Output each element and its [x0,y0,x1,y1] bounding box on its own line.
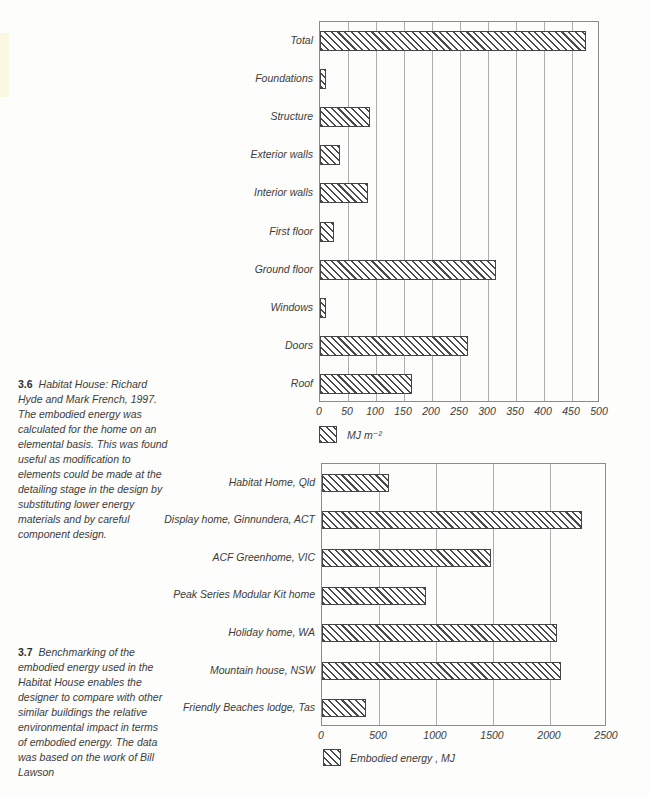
category-label: Display home, Ginnundera, ACT [110,501,315,539]
bar [322,624,557,642]
gridline [493,464,494,725]
category-label: Habitat Home, Qld [110,463,315,501]
bar [322,587,426,605]
bar [322,662,561,680]
category-label: Friendly Beaches lodge, Tas [110,688,315,726]
x-tick-label: 1000 [423,729,446,741]
legend-swatch-embodied-energy [323,749,341,766]
bar [322,549,491,567]
legend-label-embodied-energy: Embodied energy , MJ [350,752,455,764]
x-tick-label: 1500 [480,729,503,741]
chart-embodied-energy-benchmark: 05001000150020002500Habitat Home, QldDis… [0,0,650,797]
category-label: Mountain house, NSW [110,651,315,689]
bar [322,474,389,492]
page: 3.6Habitat House: RichardHyde and Mark F… [0,0,650,797]
x-tick-label: 2500 [594,729,617,741]
legend-label-mj-per-m2: MJ m⁻² [347,429,382,441]
gridline [436,464,437,725]
category-label: Holiday home, WA [110,613,315,651]
legend-swatch-mj-per-m2 [319,426,337,443]
x-tick-label: 0 [318,729,324,741]
category-label: Peak Series Modular Kit home [110,576,315,614]
x-tick-label: 500 [369,729,387,741]
x-tick-label: 2000 [537,729,560,741]
bar [322,511,582,529]
category-label: ACF Greenhome, VIC [110,538,315,576]
plot-area [321,463,606,726]
bar [322,699,366,717]
gridline [550,464,551,725]
